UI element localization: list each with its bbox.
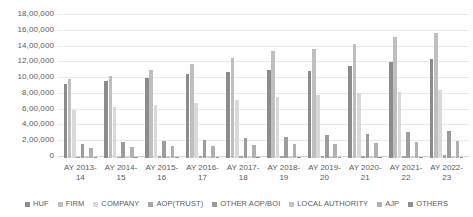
- legend-label: AOP(TRUST): [156, 200, 203, 208]
- bar-group: [345, 0, 386, 158]
- bar-group: [101, 0, 142, 158]
- y-axis-tick-label: 10,00,000: [18, 73, 55, 81]
- x-axis-tick-label: AY 2021-22: [386, 160, 427, 190]
- x-axis-tick-label-line1: AY 2018-: [268, 163, 301, 172]
- bar: [216, 157, 220, 158]
- bar-group: [386, 0, 427, 158]
- bar: [312, 49, 316, 158]
- y-axis-tick-label: 6,00,000: [22, 105, 54, 113]
- bar: [348, 66, 352, 158]
- bar: [460, 157, 464, 158]
- legend-swatch-icon: [289, 202, 294, 207]
- legend-swatch-icon: [25, 202, 30, 207]
- bar: [443, 155, 447, 158]
- bar: [325, 135, 329, 158]
- x-axis-tick-label-line2: 17: [182, 173, 223, 183]
- bar: [175, 157, 179, 158]
- bar: [158, 156, 162, 158]
- bar: [402, 156, 406, 158]
- y-axis: 02,00,0004,00,0006,00,0008,00,00010,00,0…: [0, 0, 58, 160]
- bar: [211, 146, 215, 158]
- bar: [366, 134, 370, 158]
- legend-item[interactable]: LOCAL AUTHORITY: [289, 200, 368, 208]
- bar: [166, 157, 170, 158]
- bar: [186, 74, 190, 158]
- bar: [389, 62, 393, 158]
- bar: [378, 157, 382, 158]
- bar: [288, 157, 292, 158]
- bar: [438, 90, 442, 158]
- bar: [113, 107, 117, 158]
- legend-item[interactable]: OTHER AOP/BOI: [212, 200, 280, 208]
- legend-item[interactable]: OTHERS: [408, 200, 448, 208]
- x-axis-tick-label: AY 2014-15: [101, 160, 142, 190]
- y-axis-tick-label: 0: [49, 152, 54, 160]
- x-axis-tick-label: AY 2022-23: [426, 160, 467, 190]
- bar: [109, 76, 113, 158]
- legend-item[interactable]: HUF: [25, 200, 49, 208]
- plot-area: 02,00,0004,00,0006,00,0008,00,00010,00,0…: [0, 0, 473, 160]
- bar: [321, 156, 325, 158]
- x-axis-tick-label: AY 2019-20: [304, 160, 345, 190]
- y-axis-tick-label: 12,00,000: [18, 57, 55, 65]
- bar-chart: 02,00,0004,00,0006,00,0008,00,00010,00,0…: [0, 0, 473, 217]
- bar: [134, 157, 138, 158]
- x-axis-tick-label-line2: 20: [304, 173, 345, 183]
- x-axis-tick-label: AY 2020-21: [345, 160, 386, 190]
- bar: [117, 157, 121, 158]
- legend-swatch-icon: [212, 202, 217, 207]
- legend-swatch-icon: [377, 202, 382, 207]
- x-axis-tick-label-line1: AY 2019-: [308, 163, 341, 172]
- x-axis-tick-label: AY 2018-19: [264, 160, 305, 190]
- bar: [256, 157, 260, 158]
- bar: [267, 70, 271, 158]
- bars-layer: [58, 0, 469, 158]
- bar: [72, 110, 76, 158]
- x-axis-tick-label-line1: AY 2021-: [390, 163, 423, 172]
- bar: [154, 105, 158, 158]
- bar: [297, 157, 301, 158]
- x-axis-tick-label-line2: 18: [223, 173, 264, 183]
- legend-item[interactable]: AJP: [377, 200, 399, 208]
- bar: [207, 157, 211, 158]
- x-axis-tick-label-line1: AY 2022-: [430, 163, 463, 172]
- legend-item[interactable]: COMPANY: [93, 200, 139, 208]
- legend-swatch-icon: [408, 202, 413, 207]
- bar-group: [60, 0, 101, 158]
- bar: [126, 157, 130, 158]
- bar: [145, 78, 149, 158]
- x-axis-tick-label-line1: AY 2014-: [105, 163, 138, 172]
- x-axis-tick-label-line2: 19: [264, 173, 305, 183]
- bar: [81, 144, 85, 158]
- bar: [104, 81, 108, 158]
- bar: [374, 143, 378, 158]
- y-axis-tick-label: 4,00,000: [22, 120, 54, 128]
- x-axis: AY 2013-14AY 2014-15AY 2015-16AY 2016-17…: [58, 160, 469, 190]
- bar: [398, 92, 402, 158]
- legend-swatch-icon: [148, 202, 153, 207]
- legend-swatch-icon: [58, 202, 63, 207]
- bar-group: [141, 0, 182, 158]
- legend-item[interactable]: AOP(TRUST): [148, 200, 203, 208]
- legend-item[interactable]: FIRM: [58, 200, 85, 208]
- bar: [280, 156, 284, 158]
- bar-group: [264, 0, 305, 158]
- bar: [333, 144, 337, 158]
- x-axis-tick-label-line2: 23: [426, 173, 467, 183]
- bar: [149, 70, 153, 158]
- bar: [171, 146, 175, 158]
- legend-label: HUF: [33, 200, 49, 208]
- bar: [361, 156, 365, 158]
- bar: [271, 51, 275, 158]
- bar: [235, 100, 239, 158]
- x-axis-tick-label-line1: AY 2015-: [145, 163, 178, 172]
- bar: [415, 142, 419, 158]
- x-axis-tick-label-line1: AY 2013-: [64, 163, 97, 172]
- y-axis-tick-label: 8,00,000: [22, 89, 54, 97]
- bar: [447, 131, 451, 158]
- bar: [357, 93, 361, 158]
- legend-label: FIRM: [66, 200, 85, 208]
- bar: [411, 157, 415, 158]
- bar: [308, 71, 312, 158]
- bar: [419, 157, 423, 158]
